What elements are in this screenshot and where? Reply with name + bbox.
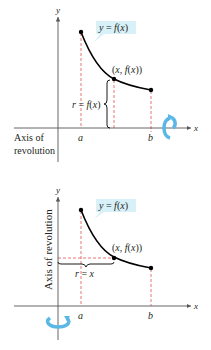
tick-label-a: a [78, 132, 83, 143]
tick-label-b: b [148, 132, 153, 143]
point-label: (x, f(x)) [112, 242, 142, 254]
y-axis-label: y [55, 5, 60, 15]
point-label: (x, f(x)) [112, 64, 142, 76]
point-x [112, 256, 116, 260]
figure-bottom: y x y = f(x) (x, f(x)) r = x a b Axis of… [14, 185, 198, 340]
radius-brace [104, 80, 110, 128]
rotate-around-y-axis-icon [48, 316, 70, 327]
axis-of-revolution-label-line1: Axis of [14, 132, 44, 143]
axis-of-revolution-label-line2: revolution [14, 145, 55, 156]
radius-label: r = x [75, 268, 95, 279]
diagram-canvas: y x y = f(x) (x, f(x)) r = f(x) a b Axis… [0, 0, 211, 350]
point-x [112, 77, 116, 81]
point-b [149, 266, 153, 270]
curve-label: y = f(x) [98, 22, 128, 34]
radius-label: r = f(x) [72, 99, 100, 111]
point-a [79, 30, 83, 34]
axis-of-revolution-label: Axis of revolution [42, 209, 54, 290]
curve-f [81, 210, 151, 268]
y-axis-label: y [55, 185, 60, 195]
radius-brace [58, 262, 114, 267]
figure-top: y x y = f(x) (x, f(x)) r = f(x) a b Axis… [14, 5, 198, 162]
x-axis-label: x [193, 123, 198, 133]
point-b [149, 88, 153, 92]
tick-label-a: a [78, 310, 83, 321]
rotate-around-x-axis-icon [164, 114, 175, 138]
curve-f [81, 32, 151, 90]
curve-label: y = f(x) [98, 200, 128, 212]
tick-label-b: b [148, 310, 153, 321]
point-a [79, 208, 83, 212]
x-axis-label: x [193, 301, 198, 311]
